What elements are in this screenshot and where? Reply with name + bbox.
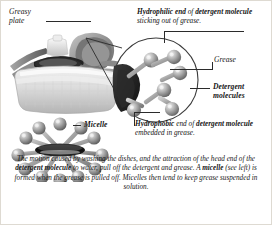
callout-hydrophilic-bold-lead: Hydrophilic end [137,7,186,16]
callout-hydrophilic-bold-two: detergent molecule [195,7,252,16]
callout-hydrophilic-tail: sticking out of grease. [137,16,201,25]
callout-hydrophilic-mid: of [186,7,195,16]
callout-hydrophobic-bold-lead: Hydrophobic [135,119,174,128]
leader-greasy-plate [46,21,91,22]
detergent-micelle-diagram: Greasy plate [0,0,272,225]
callout-hydrophobic-bold-two: detergent molecule [196,119,253,128]
magnified-grease-circle [112,36,200,124]
label-grease: Grease [214,55,266,64]
leader-grease [170,69,212,70]
label-detergent-molecules: Detergent molecules [213,82,269,100]
callout-hydrophobic: Hydrophobic end of detergent molecule em… [135,119,268,137]
callout-hydrophilic: Hydrophilic end of detergent molecule st… [137,7,269,25]
caption-part2: to water, pull off the detergent and gre… [71,164,202,172]
leader-hydrophilic-horizontal [164,31,244,32]
caption-part1: The motion caused by washing the dishes,… [17,155,255,163]
leader-hydrophobic-horizontal [134,112,160,113]
caption-paragraph: The motion caused by washing the dishes,… [6,155,266,193]
leader-hydrophilic-vertical [164,31,165,43]
callout-hydrophobic-tail: embedded in grease. [135,128,195,137]
leader-grease-drop [212,62,213,70]
label-micelle: Micelle [84,120,128,129]
leader-micelle [73,125,81,126]
callout-hydrophobic-mid: end of [174,119,196,128]
caption-bold1: detergent molecule [15,164,71,172]
magnifier-connector-lines [84,34,124,106]
leader-detergent-molecules [190,88,210,89]
caption-bold2: micelle [202,164,223,172]
label-greasy-plate: Greasy plate [9,7,49,25]
